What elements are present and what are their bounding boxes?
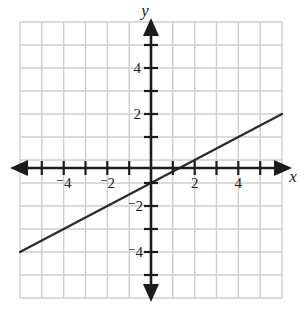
y-tick-label-neg4: ⁻4 [128,244,144,260]
y-tick-label-2: 2 [134,106,142,122]
x-tick-label-2: 2 [191,175,199,191]
x-axis-left-arrowhead [10,160,28,176]
x-tick-label-neg2: ⁻2 [100,175,116,191]
y-axis-top-arrowhead [143,18,159,36]
x-axis-label: x [288,167,297,186]
y-tick-label-neg2: ⁻2 [128,198,144,214]
x-tick-label-neg4: ⁻4 [56,175,72,191]
y-tick-label-4: 4 [134,60,142,76]
coordinate-plane-svg: ⁻4 ⁻2 2 4 4 2 ⁻2 ⁻4 x y [0,0,305,311]
y-axis-bottom-arrowhead [143,284,159,302]
graph-figure: ⁻4 ⁻2 2 4 4 2 ⁻2 ⁻4 x y [0,0,305,311]
y-axis-label: y [139,1,149,20]
x-tick-label-4: 4 [235,175,243,191]
